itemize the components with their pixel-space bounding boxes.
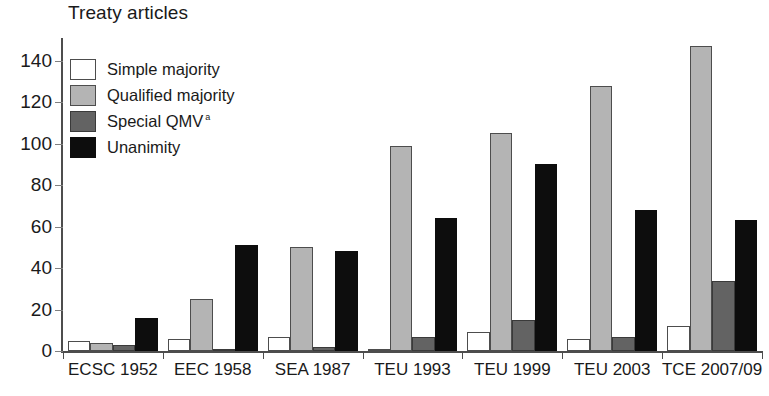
y-axis-tick-label: 40 xyxy=(0,257,52,279)
bar xyxy=(567,339,589,351)
y-axis-tick-label: 20 xyxy=(0,299,52,321)
x-axis-tick xyxy=(163,352,164,359)
legend-swatch-icon xyxy=(70,85,96,106)
bar xyxy=(168,339,190,351)
bar-group xyxy=(462,40,562,351)
bar xyxy=(667,326,689,351)
bar xyxy=(113,345,135,351)
bar xyxy=(213,349,235,351)
bar xyxy=(268,337,290,352)
y-axis-tick-label: 80 xyxy=(0,174,52,196)
bar-group xyxy=(263,40,363,351)
y-axis-tick xyxy=(55,102,63,103)
bar xyxy=(68,341,90,351)
y-axis-tick-label: 100 xyxy=(0,133,52,155)
bar xyxy=(290,247,312,351)
y-axis-tick xyxy=(55,268,63,269)
x-axis-category-label: EEC 1958 xyxy=(174,360,252,380)
bar xyxy=(490,133,512,351)
x-axis-tick xyxy=(363,352,364,359)
x-axis-category-label: TEU 2003 xyxy=(574,360,651,380)
bar xyxy=(368,349,390,351)
y-axis-tick xyxy=(55,227,63,228)
x-axis-tick xyxy=(263,352,264,359)
x-axis-tick xyxy=(562,352,563,359)
bar xyxy=(635,210,657,351)
x-axis-category-label: SEA 1987 xyxy=(275,360,351,380)
bar xyxy=(390,146,412,351)
x-axis-line xyxy=(61,351,763,353)
y-axis-tick xyxy=(55,61,63,62)
legend-item-label: Unanimity xyxy=(107,138,180,157)
chart-title: Treaty articles xyxy=(68,2,188,24)
legend-swatch-icon xyxy=(70,59,96,80)
bar-group xyxy=(662,40,762,351)
x-axis-category-label: TEU 1993 xyxy=(374,360,451,380)
bar xyxy=(313,347,335,351)
x-axis-category-label: ECSC 1952 xyxy=(68,360,158,380)
bar-group xyxy=(363,40,463,351)
bar xyxy=(235,245,257,351)
legend-swatch-icon xyxy=(70,111,96,132)
legend-item-label: Simple majority xyxy=(107,60,220,79)
legend-swatch-icon xyxy=(70,137,96,158)
bar xyxy=(612,337,634,352)
y-axis-tick xyxy=(55,351,63,352)
bar xyxy=(335,251,357,351)
bar xyxy=(190,299,212,351)
bar xyxy=(90,343,112,351)
bar xyxy=(467,332,489,351)
y-axis-tick-label: 140 xyxy=(0,50,52,72)
y-axis-tick xyxy=(55,144,63,145)
y-axis-tick xyxy=(55,185,63,186)
y-axis-tick-label: 60 xyxy=(0,216,52,238)
bar xyxy=(535,164,557,351)
bar xyxy=(412,337,434,352)
chart-legend: Simple majorityQualified majoritySpecial… xyxy=(70,56,234,160)
x-axis-category-label: TCE 2007/09 xyxy=(662,360,762,380)
legend-footnote-marker: a xyxy=(205,112,210,122)
bar xyxy=(690,46,712,351)
bar-chart: Treaty articles 020406080100120140 ECSC … xyxy=(0,0,769,396)
x-axis-category-label: TEU 1999 xyxy=(474,360,551,380)
bar xyxy=(435,218,457,351)
bar xyxy=(735,220,757,351)
bar xyxy=(512,320,534,351)
legend-item: Qualified majority xyxy=(70,82,234,108)
x-axis-tick xyxy=(63,352,64,359)
y-axis-tick xyxy=(55,310,63,311)
bar xyxy=(135,318,157,351)
bar xyxy=(590,86,612,351)
x-axis-tick xyxy=(762,352,763,359)
legend-item-label: Qualified majority xyxy=(107,86,234,105)
x-axis-tick xyxy=(462,352,463,359)
bar xyxy=(712,281,734,351)
legend-item: Simple majority xyxy=(70,56,234,82)
y-axis-tick-label: 0 xyxy=(0,340,52,362)
bar-group xyxy=(562,40,662,351)
x-axis-tick xyxy=(662,352,663,359)
legend-item-label: Special QMVa xyxy=(107,112,210,131)
legend-item: Special QMVa xyxy=(70,108,234,134)
legend-item: Unanimity xyxy=(70,134,234,160)
y-axis-tick-label: 120 xyxy=(0,91,52,113)
